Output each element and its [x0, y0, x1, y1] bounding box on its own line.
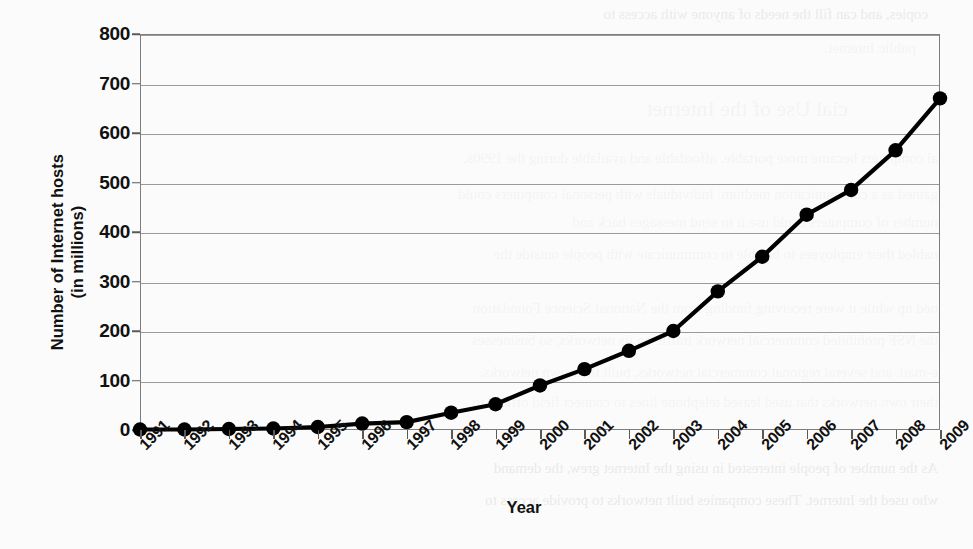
y-tick-label-300: 300: [99, 271, 130, 293]
y-tick-mark-500: [132, 182, 140, 184]
data-series-layer: [140, 34, 940, 430]
y-tick-label-100: 100: [99, 370, 130, 392]
y-tick-mark-600: [132, 132, 140, 134]
data-point-2004: [711, 284, 725, 298]
x-tick-label-2009: 2009: [936, 416, 973, 453]
x-axis-title: Year: [0, 498, 968, 517]
y-tick-label-0: 0: [120, 419, 130, 441]
y-axis-title: Number of Internet hosts (in millions): [47, 102, 87, 402]
y-tick-mark-700: [132, 83, 140, 85]
x-axis-tick-labels: 1991199219931994199519961997199819992000…: [140, 441, 940, 501]
y-tick-mark-400: [132, 231, 140, 233]
y-tick-mark-200: [132, 330, 140, 332]
data-point-1999: [488, 397, 502, 411]
y-tick-mark-800: [132, 33, 140, 35]
y-tick-mark-300: [132, 281, 140, 283]
y-tick-label-400: 400: [99, 221, 130, 243]
data-point-2005: [755, 250, 769, 264]
series-markers: [133, 91, 947, 437]
data-point-1996: [355, 416, 369, 430]
data-point-2002: [622, 344, 636, 358]
data-point-2007: [844, 183, 858, 197]
y-axis: 0100200300400500600700800: [96, 34, 140, 430]
y-tick-label-500: 500: [99, 172, 130, 194]
data-point-2006: [799, 207, 813, 221]
data-point-1997: [399, 415, 413, 429]
data-point-1998: [444, 405, 458, 419]
y-tick-mark-100: [132, 380, 140, 382]
data-point-2009: [933, 91, 947, 105]
y-tick-label-700: 700: [99, 73, 130, 95]
y-tick-label-800: 800: [99, 23, 130, 45]
data-point-2001: [577, 362, 591, 376]
y-axis-title-line1: Number of Internet hosts: [47, 102, 67, 402]
data-point-2008: [888, 143, 902, 157]
y-tick-label-600: 600: [99, 122, 130, 144]
y-tick-label-200: 200: [99, 320, 130, 342]
y-axis-title-line2: (in millions): [67, 102, 87, 402]
data-point-2000: [533, 378, 547, 392]
data-point-2003: [666, 324, 680, 338]
